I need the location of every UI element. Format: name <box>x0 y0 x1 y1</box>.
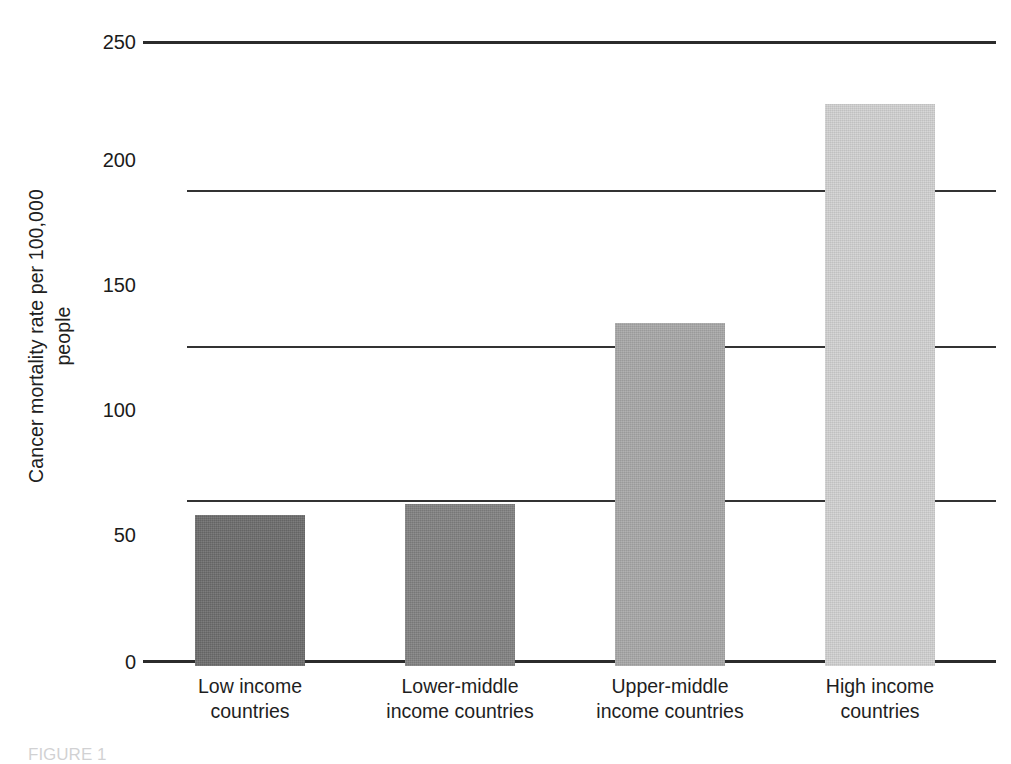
y-axis-tick-labels: 250 200 150 100 50 0 <box>78 36 136 666</box>
x-label-lower-middle-income-countries: Lower-middle income countries <box>370 674 550 724</box>
bar-series <box>143 36 996 666</box>
bar-high-income-countries <box>825 104 935 666</box>
y-tick-label-200: 200 <box>84 150 136 170</box>
y-axis-title-line-1: Cancer mortality rate per 100,000 <box>25 189 47 483</box>
x-label-line-1: Lower-middle <box>401 675 518 697</box>
y-axis-title-line-2: people <box>50 189 77 483</box>
y-tick-label-150: 150 <box>84 275 136 295</box>
x-label-line-2: countries <box>165 699 335 724</box>
bar-upper-middle-income-countries <box>615 323 725 666</box>
y-tick-label-100: 100 <box>84 400 136 420</box>
x-label-line-1: Upper-middle <box>611 675 728 697</box>
y-tick-label-0: 0 <box>84 652 136 672</box>
x-label-line-2: income countries <box>370 699 550 724</box>
x-label-low-income-countries: Low income countries <box>165 674 335 724</box>
x-label-upper-middle-income-countries: Upper-middle income countries <box>580 674 760 724</box>
bar-low-income-countries <box>195 515 305 666</box>
bar-lower-middle-income-countries <box>405 504 515 666</box>
x-label-line-1: Low income <box>198 675 302 697</box>
x-axis-category-labels: Low income countries Lower-middle income… <box>143 674 996 734</box>
figure-caption: FIGURE 1 <box>28 745 106 764</box>
x-label-high-income-countries: High income countries <box>795 674 965 724</box>
y-tick-label-50: 50 <box>84 525 136 545</box>
x-label-line-2: countries <box>795 699 965 724</box>
x-label-line-1: High income <box>826 675 934 697</box>
x-label-line-2: income countries <box>580 699 760 724</box>
y-tick-label-250: 250 <box>84 32 136 52</box>
y-axis-title: Cancer mortality rate per 100,000 people <box>18 0 82 672</box>
